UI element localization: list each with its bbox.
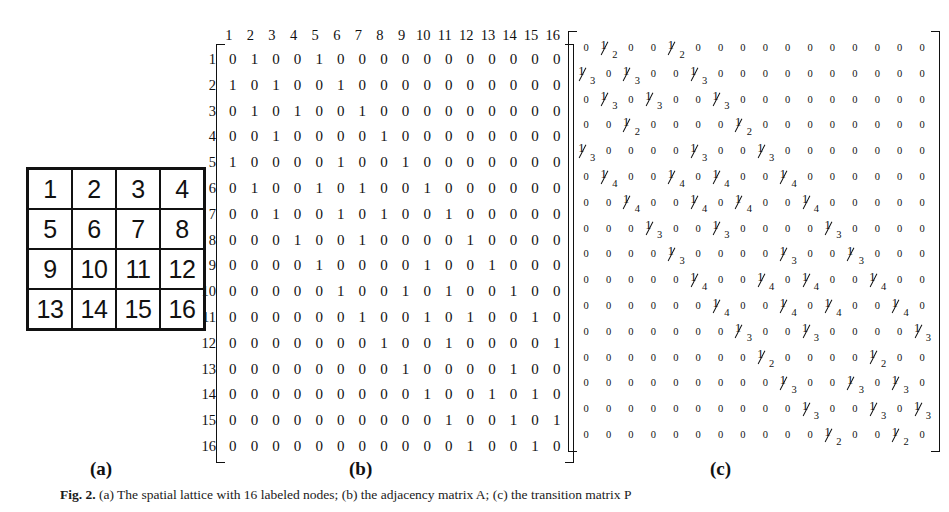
transition-matrix-cell: 0 xyxy=(911,422,933,448)
adjacency-matrix-cell: 0 xyxy=(352,253,374,279)
transition-zero-value: 0 xyxy=(897,68,902,79)
transition-matrix-cell: 0 xyxy=(687,319,709,345)
transition-matrix-cell: 0 xyxy=(665,112,687,138)
transition-zero-value: 0 xyxy=(852,42,857,53)
transition-matrix-cell: 13 xyxy=(687,61,709,87)
adjacency-col-header: 3 xyxy=(261,27,283,44)
transition-zero-value: 0 xyxy=(628,352,633,363)
transition-zero-value: 0 xyxy=(740,300,745,311)
adjacency-matrix-cell: 0 xyxy=(438,73,460,99)
transition-matrix-cell: 0 xyxy=(665,293,687,319)
transition-zero-value: 0 xyxy=(584,223,589,234)
fraction-glyph: 14 xyxy=(713,169,729,187)
fraction-denominator: 4 xyxy=(702,204,707,214)
adjacency-matrix-cell: 0 xyxy=(373,73,395,99)
transition-zero-value: 0 xyxy=(696,352,701,363)
transition-zero-value: 0 xyxy=(763,197,768,208)
adjacency-matrix-cell: 0 xyxy=(503,228,525,254)
adjacency-matrix-cell: 0 xyxy=(265,228,287,254)
adjacency-matrix-cell: 0 xyxy=(287,176,309,202)
transition-zero-value: 0 xyxy=(584,377,589,388)
adjacency-matrix-cell: 0 xyxy=(524,279,546,305)
adjacency-matrix-cell: 0 xyxy=(416,228,438,254)
transition-zero-value: 0 xyxy=(696,326,701,337)
adjacency-matrix-cell: 0 xyxy=(330,331,352,357)
adjacency-matrix-row: 0000001001010010 xyxy=(222,305,568,331)
transition-zero-value: 0 xyxy=(606,403,611,414)
transition-zero-value: 0 xyxy=(807,119,812,130)
fraction-glyph: 14 xyxy=(780,298,796,316)
adjacency-matrix-cell: 0 xyxy=(373,47,395,73)
transition-matrix-row: 000000000001200120 xyxy=(575,422,933,448)
transition-matrix-cell: 13 xyxy=(687,138,709,164)
adjacency-matrix-cell: 0 xyxy=(265,331,287,357)
adjacency-matrix-cell: 0 xyxy=(330,382,352,408)
transition-matrix-cell: 0 xyxy=(642,370,664,396)
adjacency-matrix-cell: 1 xyxy=(416,305,438,331)
adjacency-row-header: 1 xyxy=(196,47,216,73)
lattice-node-cell: 1 xyxy=(28,169,73,210)
transition-zero-value: 0 xyxy=(875,429,880,440)
adjacency-matrix-cell: 0 xyxy=(460,99,482,125)
transition-zero-value: 0 xyxy=(897,171,902,182)
transition-matrix-cell: 0 xyxy=(844,216,866,242)
transition-matrix-cell: 0 xyxy=(888,319,910,345)
transition-zero-value: 0 xyxy=(785,145,790,156)
fraction-denominator: 3 xyxy=(612,101,617,111)
transition-zero-value: 0 xyxy=(830,94,835,105)
adjacency-matrix-cell: 0 xyxy=(330,357,352,383)
transition-matrix-cell: 0 xyxy=(754,370,776,396)
transition-matrix-cell: 0 xyxy=(821,241,843,267)
transition-matrix-cell: 0 xyxy=(799,241,821,267)
transition-zero-value: 0 xyxy=(785,352,790,363)
transition-matrix-cell: 0 xyxy=(844,138,866,164)
adjacency-matrix-cell: 0 xyxy=(416,150,438,176)
adjacency-matrix-cell: 1 xyxy=(373,202,395,228)
adjacency-matrix-cell: 0 xyxy=(222,382,244,408)
transition-matrix-cell: 13 xyxy=(642,87,664,113)
transition-matrix-cell: 0 xyxy=(911,61,933,87)
transition-matrix-cell: 0 xyxy=(911,164,933,190)
transition-zero-value: 0 xyxy=(606,68,611,79)
fraction-glyph: 13 xyxy=(578,143,594,161)
adjacency-matrix-cell: 0 xyxy=(503,253,525,279)
adjacency-matrix-cell: 1 xyxy=(524,434,546,460)
transition-zero-value: 0 xyxy=(785,223,790,234)
transition-zero-value: 0 xyxy=(897,42,902,53)
adjacency-matrix-cell: 0 xyxy=(308,305,330,331)
adjacency-matrix-cell: 0 xyxy=(373,382,395,408)
transition-matrix-cell: 0 xyxy=(799,61,821,87)
transition-matrix-cell: 14 xyxy=(799,190,821,216)
transition-matrix-cell: 0 xyxy=(821,164,843,190)
transition-matrix-row: 0000000130013000013 xyxy=(575,319,933,345)
transition-matrix-cell: 0 xyxy=(888,112,910,138)
transition-zero-value: 0 xyxy=(628,429,633,440)
adjacency-matrix-cell: 0 xyxy=(395,434,417,460)
adjacency-matrix-cell: 0 xyxy=(503,176,525,202)
adjacency-matrix-cell: 0 xyxy=(481,357,503,383)
adjacency-row-header: 3 xyxy=(196,99,216,125)
transition-matrix-cell: 0 xyxy=(642,190,664,216)
adjacency-matrix-cell: 0 xyxy=(503,47,525,73)
transition-matrix-cell: 0 xyxy=(911,87,933,113)
fraction-glyph: 13 xyxy=(757,143,773,161)
adjacency-matrix-cell: 0 xyxy=(265,357,287,383)
adjacency-matrix-cell: 0 xyxy=(546,434,568,460)
adjacency-matrix-row: 1010010000000000 xyxy=(222,73,568,99)
transition-matrix-row: 0000000000130013013 xyxy=(575,396,933,422)
transition-matrix-cell: 0 xyxy=(665,319,687,345)
adjacency-matrix-cell: 1 xyxy=(481,253,503,279)
transition-matrix-cell: 13 xyxy=(799,319,821,345)
adjacency-matrix-cell: 0 xyxy=(373,357,395,383)
adjacency-matrix-cell: 0 xyxy=(524,408,546,434)
adjacency-matrix-cell: 0 xyxy=(481,228,503,254)
transition-matrix-cell: 0 xyxy=(777,87,799,113)
adjacency-matrix-cell: 0 xyxy=(244,124,266,150)
transition-zero-value: 0 xyxy=(875,300,880,311)
adjacency-matrix-cell: 0 xyxy=(308,434,330,460)
lattice-node-cell: 9 xyxy=(28,249,73,289)
adjacency-matrix-cell: 0 xyxy=(287,408,309,434)
transition-zero-value: 0 xyxy=(763,94,768,105)
transition-zero-value: 0 xyxy=(673,274,678,285)
transition-matrix-cell: 0 xyxy=(777,345,799,371)
